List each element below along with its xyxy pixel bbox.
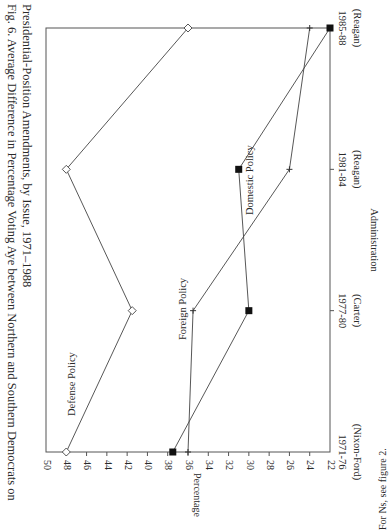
caption-line-2: Presidential-Position Amendments, by Iss…	[20, 4, 34, 287]
y-tick-label: 50	[42, 460, 53, 470]
y-tick-label: 32	[224, 460, 235, 470]
plus-marker	[185, 449, 191, 455]
x-tick-label: (Reagan)	[351, 150, 363, 189]
administration-axis-ticks: 1971-76(Nixon-Ford)1977-80(Carter)1981-8…	[330, 9, 363, 481]
x-tick-label: (Nixon-Ford)	[351, 424, 363, 481]
label-defense-policy: Defense Policy	[66, 351, 77, 416]
series-group	[62, 24, 333, 456]
y-tick-label: 48	[62, 460, 73, 470]
square-marker	[169, 449, 176, 456]
y-tick-label: 38	[163, 460, 174, 470]
x-tick-label: 1977-80	[337, 293, 348, 328]
y-tick-label: 44	[103, 460, 114, 470]
y-axis-label: Percentage	[192, 473, 203, 517]
plot-frame	[46, 28, 330, 452]
plus-marker	[286, 166, 292, 172]
y-tick-label: 24	[305, 460, 316, 470]
diamond-marker	[62, 448, 70, 456]
label-domestic-policy: Domestic Policy	[244, 145, 255, 215]
y-tick-label: 36	[184, 460, 195, 470]
x-tick-label: (Reagan)	[351, 9, 363, 48]
y-tick-label: 22	[326, 460, 337, 470]
y-tick-label: 46	[82, 460, 93, 470]
caption-line-1: Fig. 6. Average Difference in Percentage…	[5, 4, 19, 501]
series-line-defense-policy	[66, 28, 188, 452]
x-axis-label: Administration	[369, 208, 380, 272]
x-tick-label: 1985-88	[337, 11, 348, 46]
plus-marker	[190, 308, 196, 314]
footnote: For Ns, see figure 2.	[377, 448, 388, 530]
figure-caption: Fig. 6. Average Difference in Percentage…	[5, 4, 34, 501]
diamond-marker	[128, 307, 136, 315]
square-marker	[245, 307, 252, 314]
square-marker	[327, 25, 334, 32]
line-chart: Fig. 6. Average Difference in Percentage…	[0, 0, 389, 530]
series-line-domestic-policy	[173, 28, 330, 452]
y-tick-label: 26	[285, 460, 296, 470]
y-tick-label: 28	[265, 460, 276, 470]
y-tick-label: 40	[143, 460, 154, 470]
x-tick-label: 1981-84	[337, 152, 348, 188]
percentage-axis-ticks: 504846444240383634323028262422	[42, 452, 337, 470]
y-tick-label: 34	[204, 460, 215, 470]
y-tick-label: 42	[123, 460, 134, 470]
x-tick-label: 1971-76	[337, 435, 348, 470]
y-tick-label: 30	[245, 460, 256, 470]
x-tick-label: (Carter)	[351, 294, 363, 328]
label-foreign-policy: Foreign Policy	[177, 277, 188, 340]
square-marker	[235, 166, 242, 173]
series-line-foreign-policy	[188, 28, 310, 452]
plus-marker	[307, 25, 313, 31]
